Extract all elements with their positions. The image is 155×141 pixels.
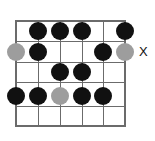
note-dot [7,87,25,105]
note-dot [51,63,69,81]
note-dot [51,87,69,105]
note-dot [94,43,112,61]
string-line-1 [15,21,17,126]
note-dot [73,22,91,40]
note-dot [7,43,25,61]
fret-line-4 [15,106,126,107]
fret-line-5 [15,125,126,127]
fret-line-3 [15,82,126,83]
fret-line-1 [15,41,126,42]
note-dot [94,87,112,105]
string-line-5 [103,21,104,126]
note-dot [73,63,91,81]
note-dot [29,22,47,40]
note-dot [29,43,47,61]
note-dot [29,87,47,105]
note-dot [51,22,69,40]
note-dot [116,43,134,61]
note-dot [116,22,134,40]
note-dot [73,87,91,105]
root-marker-label: X [139,45,148,58]
fret-line-2 [15,62,126,63]
fret-line-0 [15,20,126,22]
fretboard-diagram: X [0,0,155,141]
